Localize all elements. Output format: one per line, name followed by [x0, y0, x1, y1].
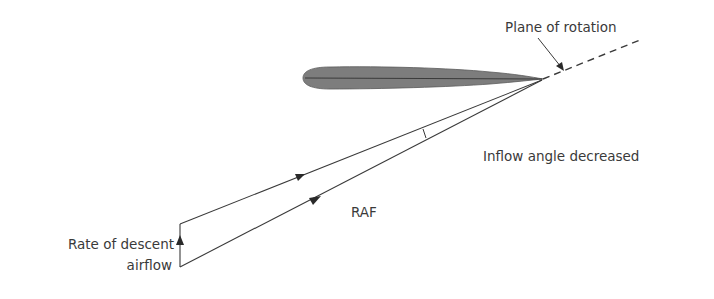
plane-of-rotation-label: Plane of rotation [505, 19, 617, 35]
upper-line-arrow-icon [295, 174, 305, 181]
rate-of-descent-label: Rate of descent [68, 236, 174, 252]
rotor-inflow-diagram: Plane of rotation Inflow angle decreased… [0, 0, 714, 299]
airfoil [303, 67, 543, 89]
raf-line [180, 80, 542, 267]
plane-of-rotation-pointer [538, 38, 564, 71]
inflow-angle-label: Inflow angle decreased [483, 148, 639, 164]
airflow-label: airflow [127, 257, 172, 273]
plane-of-rotation-line [543, 40, 640, 79]
raf-label: RAF [351, 204, 377, 220]
inflow-angle-marker [423, 129, 426, 138]
raf-arrow-icon [309, 196, 321, 205]
rate-of-descent-arrow-icon [176, 235, 184, 245]
